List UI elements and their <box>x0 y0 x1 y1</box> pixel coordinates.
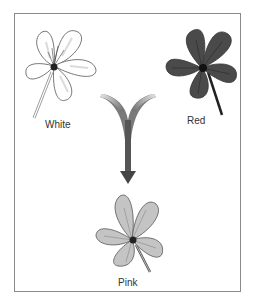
pink-flower-icon <box>96 195 163 272</box>
diagram-canvas <box>0 0 256 307</box>
white-flower-icon <box>26 31 96 118</box>
white-flower-label: White <box>45 120 71 130</box>
red-flower-icon <box>166 29 237 115</box>
red-flower-label: Red <box>187 116 205 126</box>
pink-flower-label: Pink <box>118 278 137 288</box>
cross-arrow-icon <box>100 94 156 184</box>
